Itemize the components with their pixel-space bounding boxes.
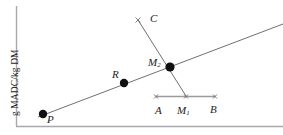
label-m1-sub: 1 <box>186 109 189 116</box>
label-b: B <box>210 104 217 115</box>
line-c <box>138 20 186 96</box>
data-point-p <box>39 110 47 118</box>
line-c-end-tick <box>136 18 141 23</box>
diagram-svg <box>0 0 283 135</box>
label-m1-base: M <box>177 104 186 116</box>
label-m2: M2 <box>148 57 161 69</box>
data-point-m2 <box>165 62 174 71</box>
y-axis-label: g MADC/kg DM <box>11 49 21 116</box>
label-m1: M1 <box>177 105 190 117</box>
label-c: C <box>150 13 157 24</box>
label-r: R <box>112 69 119 80</box>
label-m2-sub: 2 <box>157 61 160 68</box>
data-point-r <box>120 79 128 87</box>
line-c-group <box>136 18 187 97</box>
figure-canvas: g MADC/kg DM C M2 R P A M1 B <box>0 0 283 135</box>
label-a: A <box>155 105 162 116</box>
label-p: P <box>47 114 54 125</box>
label-m2-base: M <box>148 56 157 68</box>
